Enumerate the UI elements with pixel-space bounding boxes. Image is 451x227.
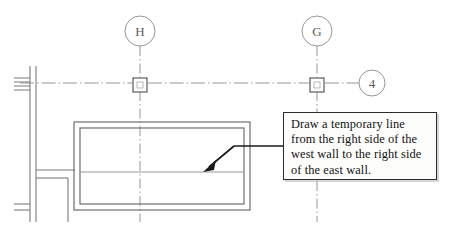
callout-text-line-4: of the east wall. (291, 163, 436, 178)
building-inner-rect (80, 128, 244, 204)
building-outer-rect (74, 122, 250, 210)
left-exterior-wall (14, 66, 36, 222)
callout-text-line-2: from the right side of the (291, 132, 436, 147)
column-g4[interactable] (310, 78, 324, 92)
callout-leader (203, 146, 283, 172)
callout-text-line-3: west wall to the right side (291, 147, 436, 162)
column-g4-outer (310, 78, 324, 92)
instruction-callout-box: Draw a temporary line from the right sid… (283, 112, 437, 180)
grid-bubble-h-label: H (135, 24, 144, 39)
west-wall-return (36, 170, 75, 222)
grid-bubble-g-label: G (312, 24, 321, 39)
drawing-canvas: H G 4 (0, 0, 451, 227)
grid-bubble-g[interactable]: G (302, 16, 332, 46)
grid-bubble-4-label: 4 (369, 76, 376, 91)
callout-text-line-1: Draw a temporary line (291, 117, 436, 132)
column-h4-outer (133, 78, 147, 92)
leader-arrowhead-icon (203, 160, 216, 172)
grid-bubble-h[interactable]: H (125, 16, 155, 46)
building-outline (74, 122, 250, 210)
column-h4[interactable] (133, 78, 147, 92)
grid-bubble-4[interactable]: 4 (359, 70, 385, 96)
